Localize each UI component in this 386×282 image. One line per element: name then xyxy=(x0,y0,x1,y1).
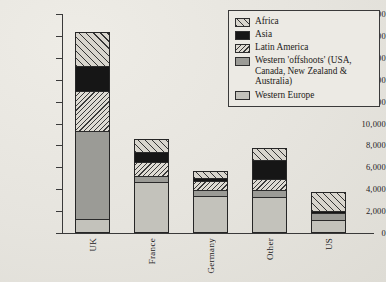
fine-hatch-swatch xyxy=(235,44,250,53)
stacked-bar-france[interactable] xyxy=(134,139,169,233)
y-axis-tick xyxy=(56,167,62,168)
bar-segment-western-europe xyxy=(76,219,109,232)
y-axis-line xyxy=(62,14,63,234)
bar-segment-western-europe xyxy=(194,196,227,232)
legend-item-3[interactable]: Western 'offshoots' (USA, Canada, New Ze… xyxy=(235,55,373,87)
stacked-bar-germany[interactable] xyxy=(193,171,228,233)
legend-item-label: Western 'offshoots' (USA, Canada, New Ze… xyxy=(255,55,373,87)
legend-item-label: Western Europe xyxy=(255,90,314,101)
solid-black-swatch xyxy=(235,31,250,40)
legend-item-1[interactable]: Asia xyxy=(235,29,373,40)
bar-segment-western-offshoots- xyxy=(76,131,109,219)
legend-item-2[interactable]: Latin America xyxy=(235,42,373,53)
y-axis-tick-label: 6,000 xyxy=(334,162,386,172)
x-axis-label-us: US xyxy=(324,238,334,250)
y-axis-tick xyxy=(56,102,62,103)
bar-segment-asia xyxy=(253,160,286,178)
solid-light-gray-swatch xyxy=(235,91,250,100)
bar-segment-western-europe xyxy=(312,220,345,232)
stacked-bar-us[interactable] xyxy=(311,192,346,233)
bar-segment-asia xyxy=(76,66,109,91)
coarse-hatch-swatch xyxy=(235,18,250,27)
y-axis-tick xyxy=(56,233,62,234)
bar-segment-latin-america xyxy=(135,162,168,176)
y-axis-tick xyxy=(56,14,62,15)
bar-segment-western-europe xyxy=(253,197,286,232)
x-axis-label-france: France xyxy=(147,238,157,264)
bar-segment-latin-america xyxy=(194,181,227,191)
y-axis-tick xyxy=(56,211,62,212)
bar-segment-africa xyxy=(312,193,345,211)
legend-item-4[interactable]: Western Europe xyxy=(235,90,373,101)
x-axis-line xyxy=(62,233,374,234)
stacked-bar-uk[interactable] xyxy=(75,32,110,233)
legend-item-label: Latin America xyxy=(255,42,308,53)
y-axis-tick xyxy=(56,189,62,190)
bar-segment-asia xyxy=(135,152,168,163)
y-axis-tick xyxy=(56,36,62,37)
x-axis-label-germany: Germany xyxy=(206,238,216,274)
bar-segment-western-europe xyxy=(135,182,168,232)
x-axis-label-uk: UK xyxy=(88,238,98,252)
chart-legend: AfricaAsiaLatin AmericaWestern 'offshoot… xyxy=(228,10,380,107)
y-axis-tick xyxy=(56,58,62,59)
bar-segment-africa xyxy=(76,33,109,67)
x-axis-label-other: Other xyxy=(265,238,275,260)
legend-item-0[interactable]: Africa xyxy=(235,16,373,27)
y-axis-tick-label: 10,000 xyxy=(334,119,386,129)
y-axis-tick xyxy=(56,80,62,81)
legend-item-label: Africa xyxy=(255,16,279,27)
bar-segment-africa xyxy=(135,140,168,152)
bar-segment-latin-america xyxy=(76,91,109,131)
y-axis-tick xyxy=(56,145,62,146)
legend-item-label: Asia xyxy=(255,29,272,40)
bar-segment-africa xyxy=(253,149,286,161)
solid-mid-gray-swatch xyxy=(235,57,250,66)
bar-segment-latin-america xyxy=(253,179,286,191)
stacked-bar-other[interactable] xyxy=(252,148,287,233)
y-axis-tick-label: 8,000 xyxy=(334,140,386,150)
y-axis-tick xyxy=(56,124,62,125)
